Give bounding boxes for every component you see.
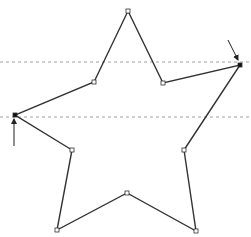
vertex-handle[interactable]: [182, 148, 186, 152]
dashed-guide-lines: [0, 62, 251, 117]
pointer-arrows: [14, 40, 238, 146]
star-diagram: [0, 0, 251, 237]
vertex-handles: [13, 9, 242, 233]
vertex-handle[interactable]: [125, 191, 129, 195]
vertex-handle[interactable]: [92, 80, 96, 84]
selected-vertex-handle[interactable]: [13, 113, 17, 117]
vertex-handle[interactable]: [126, 9, 130, 13]
vertex-handle[interactable]: [70, 148, 74, 152]
selected-vertex-handle[interactable]: [238, 63, 242, 67]
vertex-handle[interactable]: [55, 228, 59, 232]
star-outline: [15, 11, 240, 231]
vertex-handle[interactable]: [194, 229, 198, 233]
star-diagram-svg: [0, 0, 251, 237]
right-tip-arrow-icon: [228, 40, 238, 60]
vertex-handle[interactable]: [161, 81, 165, 85]
